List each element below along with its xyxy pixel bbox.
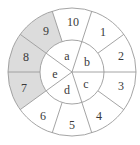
inner-label-c: c <box>83 77 88 91</box>
outer-label-9: 9 <box>43 24 49 38</box>
outer-label-3: 3 <box>118 79 124 93</box>
outer-label-4: 4 <box>96 109 102 123</box>
inner-label-b: b <box>84 55 90 69</box>
outer-label-8: 8 <box>23 50 29 64</box>
outer-label-1: 1 <box>100 25 106 39</box>
outer-label-10: 10 <box>67 15 79 29</box>
circular-segment-diagram: 1 2 3 4 5 6 7 8 9 10 a b c d e <box>0 0 140 145</box>
inner-label-d: d <box>64 83 70 97</box>
outer-label-7: 7 <box>21 81 27 95</box>
inner-label-a: a <box>64 49 70 63</box>
inner-label-e: e <box>52 67 57 81</box>
outer-label-2: 2 <box>118 49 124 63</box>
outer-label-6: 6 <box>40 109 46 123</box>
outer-label-5: 5 <box>69 118 75 132</box>
